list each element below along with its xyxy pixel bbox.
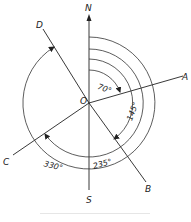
arc-235 <box>45 49 143 157</box>
angle-label-235: 235° <box>92 157 113 171</box>
azimuth-diagram: N S O A B C D 70° 145° 235° 330° <box>0 0 191 222</box>
angle-label-70: 70° <box>96 82 112 95</box>
line-c <box>13 103 89 155</box>
label-b: B <box>145 184 151 194</box>
line-d <box>43 29 89 103</box>
label-origin: O <box>80 96 87 106</box>
label-a: A <box>181 72 188 82</box>
label-south: S <box>86 195 92 205</box>
angle-label-145: 145° <box>125 101 140 122</box>
caption-placeholder <box>40 213 150 214</box>
angle-label-330: 330° <box>43 159 64 173</box>
north-arrow-icon <box>87 14 92 21</box>
label-c: C <box>3 157 10 167</box>
line-b <box>89 103 146 182</box>
label-d: D <box>36 20 43 30</box>
figure-caption <box>40 212 150 215</box>
label-north: N <box>85 3 92 13</box>
